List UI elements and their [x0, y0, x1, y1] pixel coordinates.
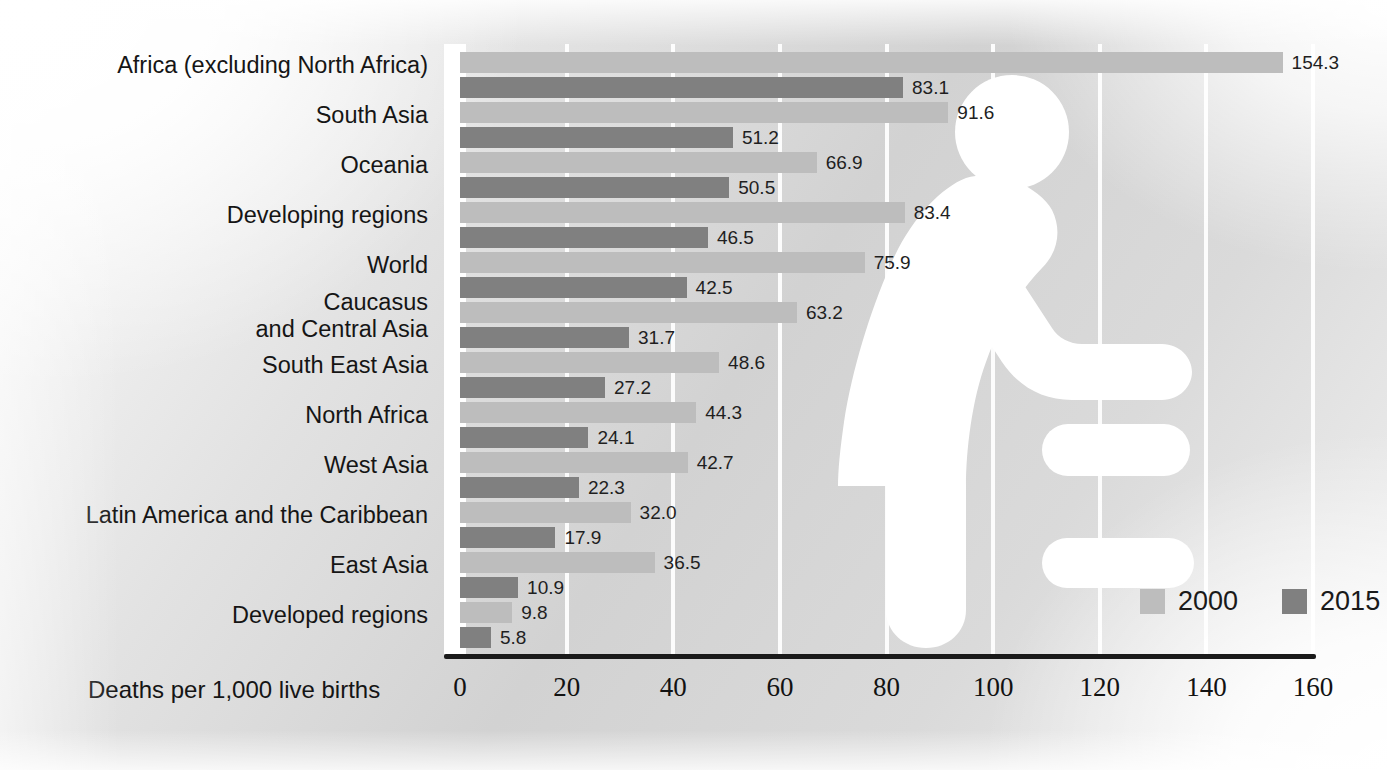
x-tick-label: 120 — [1080, 672, 1121, 703]
category-label: Caucasus and Central Asia — [256, 289, 428, 343]
bar-value-label: 75.9 — [874, 252, 911, 273]
bar-row: 75.942.5 — [460, 252, 1313, 298]
legend-swatch-2000 — [1140, 589, 1165, 614]
bar-2015[interactable] — [460, 77, 903, 98]
bar-row: 42.722.3 — [460, 452, 1313, 498]
category-label: West Asia — [324, 452, 428, 479]
bar-row: 48.627.2 — [460, 352, 1313, 398]
bar-value-label: 9.8 — [521, 602, 547, 623]
bar-row: 83.446.5 — [460, 202, 1313, 248]
bar-value-label: 42.7 — [697, 452, 734, 473]
bar-value-label: 46.5 — [717, 227, 754, 248]
plot-area: 154.383.191.651.266.950.583.446.575.942.… — [460, 44, 1313, 654]
bar-row: 63.231.7 — [460, 302, 1313, 348]
bar-2015[interactable] — [460, 527, 555, 548]
bar-2000[interactable] — [460, 52, 1283, 73]
bar-value-label: 27.2 — [614, 377, 651, 398]
bar-value-label: 83.4 — [914, 202, 951, 223]
legend-item-2015[interactable]: 2015 — [1282, 586, 1380, 617]
bar-value-label: 91.6 — [957, 102, 994, 123]
bar-2000[interactable] — [460, 302, 797, 323]
category-label: Developed regions — [232, 602, 428, 629]
bar-row: 154.383.1 — [460, 52, 1313, 98]
bar-value-label: 51.2 — [742, 127, 779, 148]
bar-2015[interactable] — [460, 627, 491, 648]
bar-value-label: 44.3 — [705, 402, 742, 423]
x-tick-label: 0 — [453, 672, 467, 703]
bar-row: 66.950.5 — [460, 152, 1313, 198]
bar-value-label: 42.5 — [696, 277, 733, 298]
legend: 2000 2015 — [1140, 586, 1380, 617]
bar-value-label: 48.6 — [728, 352, 765, 373]
bar-value-label: 50.5 — [738, 177, 775, 198]
bar-2015[interactable] — [460, 577, 518, 598]
bar-value-label: 5.8 — [500, 627, 526, 648]
x-tick-label: 20 — [553, 672, 580, 703]
x-tick-label: 100 — [973, 672, 1014, 703]
category-label: Latin America and the Caribbean — [86, 502, 428, 529]
bar-2000[interactable] — [460, 402, 696, 423]
category-axis: Africa (excluding North Africa) South As… — [0, 44, 440, 654]
bar-row: 91.651.2 — [460, 102, 1313, 148]
bar-2000[interactable] — [460, 352, 719, 373]
category-label: Oceania — [340, 152, 428, 179]
bar-2015[interactable] — [460, 327, 629, 348]
x-tick-label: 80 — [873, 672, 900, 703]
bar-2000[interactable] — [460, 152, 817, 173]
bar-value-label: 36.5 — [664, 552, 701, 573]
bar-2000[interactable] — [460, 552, 655, 573]
category-label: Developing regions — [227, 202, 428, 229]
bar-2000[interactable] — [460, 202, 905, 223]
bar-2015[interactable] — [460, 427, 588, 448]
category-label: South East Asia — [262, 352, 428, 379]
bar-2000[interactable] — [460, 252, 865, 273]
x-tick-label: 60 — [766, 672, 793, 703]
bar-value-label: 63.2 — [806, 302, 843, 323]
bar-2000[interactable] — [460, 452, 688, 473]
legend-swatch-2015 — [1282, 589, 1307, 614]
bar-value-label: 10.9 — [527, 577, 564, 598]
category-label: North Africa — [305, 402, 428, 429]
bar-value-label: 66.9 — [826, 152, 863, 173]
bar-value-label: 31.7 — [638, 327, 675, 348]
bar-2000[interactable] — [460, 502, 631, 523]
category-label: Africa (excluding North Africa) — [117, 52, 428, 79]
x-tick-label: 40 — [660, 672, 687, 703]
category-label: South Asia — [316, 102, 428, 129]
bar-2015[interactable] — [460, 127, 733, 148]
bar-row: 44.324.1 — [460, 402, 1313, 448]
x-tick-label: 140 — [1186, 672, 1227, 703]
category-label: East Asia — [330, 552, 428, 579]
x-tick-label: 160 — [1293, 672, 1334, 703]
bar-value-label: 17.9 — [564, 527, 601, 548]
legend-label-2000: 2000 — [1178, 586, 1238, 617]
bar-row: 32.017.9 — [460, 502, 1313, 548]
bar-2015[interactable] — [460, 227, 708, 248]
bar-value-label: 83.1 — [912, 77, 949, 98]
bar-2015[interactable] — [460, 477, 579, 498]
bar-2000[interactable] — [460, 602, 512, 623]
bar-2015[interactable] — [460, 277, 687, 298]
legend-label-2015: 2015 — [1320, 586, 1380, 617]
x-axis-title: Deaths per 1,000 live births — [88, 676, 380, 704]
bar-value-label: 22.3 — [588, 477, 625, 498]
bar-2015[interactable] — [460, 377, 605, 398]
x-axis-line — [444, 654, 1316, 659]
bar-value-label: 154.3 — [1292, 52, 1340, 73]
bar-2015[interactable] — [460, 177, 729, 198]
x-axis-ticks: 020406080100120140160 — [460, 672, 1313, 712]
bar-2000[interactable] — [460, 102, 948, 123]
legend-item-2000[interactable]: 2000 — [1140, 586, 1238, 617]
bar-value-label: 24.1 — [597, 427, 634, 448]
chart-page: Africa (excluding North Africa) South As… — [0, 0, 1387, 770]
category-label: World — [367, 252, 428, 279]
bar-value-label: 32.0 — [640, 502, 677, 523]
